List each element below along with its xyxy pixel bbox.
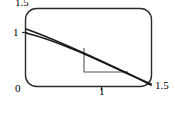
y-axis-label-one: 1 [13, 27, 19, 38]
right-angle-bracket [84, 48, 128, 72]
origin-label: 0 [15, 83, 21, 94]
x-axis-label-max: 1.5 [155, 80, 169, 91]
plot-canvas [0, 0, 175, 119]
plot-figure: 1.5 1 0 1 1.5 [0, 0, 175, 119]
y-axis-label-max: 1.5 [15, 0, 29, 8]
curve-lower [26, 33, 151, 84]
x-axis-label-one: 1 [99, 86, 105, 97]
